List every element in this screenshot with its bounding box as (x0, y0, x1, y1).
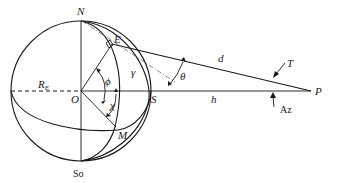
label-north: N (76, 5, 85, 17)
label-e: E (113, 33, 121, 45)
label-d: d (218, 52, 224, 64)
azimuth-arrowhead (270, 92, 276, 98)
label-theta: θ (180, 70, 186, 82)
label-radius: RE (37, 78, 50, 92)
label-gamma: γ (131, 66, 136, 78)
chi-arrow-top (114, 88, 118, 92)
chi-arrow-bottom (106, 113, 111, 117)
label-t: T (287, 57, 294, 69)
label-s: S (151, 93, 157, 105)
label-az: Az (280, 104, 292, 115)
tilt-arrow-line (276, 63, 285, 74)
earth-geometry-diagram: N So E O S M RE ϕ χ γ θ d h T Az P (0, 0, 339, 183)
label-m: M (117, 129, 128, 141)
tangent-line (82, 21, 175, 82)
label-h: h (211, 93, 217, 105)
phi-arrow-bottom (101, 100, 106, 104)
label-o: O (71, 93, 79, 105)
label-p: P (314, 85, 322, 97)
label-south-pole: So (73, 168, 84, 179)
equator-front (11, 91, 118, 131)
label-phi: ϕ (105, 75, 111, 87)
phi-arrow-top (96, 68, 101, 73)
